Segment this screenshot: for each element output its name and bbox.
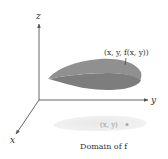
domain-point-label: (x, y): [100, 121, 118, 129]
x-axis: [16, 100, 39, 134]
function-graph-diagram: z y x (x, y, f(x, y)) (x, y) Domain of f: [0, 0, 168, 159]
domain-caption: Domain of f: [80, 142, 128, 151]
domain-point-dot: [126, 123, 129, 126]
x-axis-label: x: [10, 135, 15, 145]
y-axis-label: y: [150, 95, 157, 105]
z-axis-label: z: [35, 11, 41, 21]
surface-point-label: (x, y, f(x, y)): [104, 48, 149, 57]
